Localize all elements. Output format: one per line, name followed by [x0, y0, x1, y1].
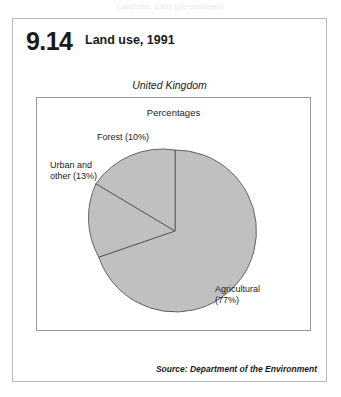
chart-plot-area: Percentages Forest (10%) Urban and other…	[36, 97, 311, 331]
figure-title: Land use, 1991	[85, 33, 175, 47]
source-note: Source: Department of the Environment	[156, 364, 317, 374]
figure-header: 9.14 Land use, 1991	[13, 27, 326, 61]
figure-number: 9.14	[26, 27, 72, 56]
figure-card: 9.14 Land use, 1991 United Kingdom Perce…	[12, 18, 327, 382]
pie-label-agricultural: Agricultural (77%)	[215, 284, 260, 306]
pie-label-forest: Forest (10%)	[97, 132, 149, 143]
pie-chart	[37, 98, 310, 330]
scan-bleed-text: Land use, 1991 (percentages)	[0, 0, 341, 14]
region-subtitle: United Kingdom	[13, 79, 326, 91]
pie-label-urban-other: Urban and other (13%)	[50, 160, 97, 182]
